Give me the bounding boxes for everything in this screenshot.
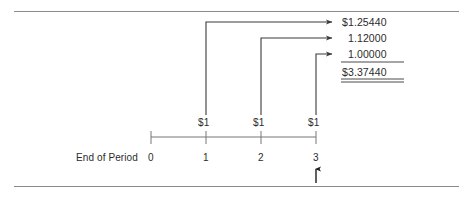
compound-path-period-2 xyxy=(261,38,332,115)
timeline-diagram xyxy=(0,0,469,201)
figure-container: $1.25440 1.12000 1.00000 $3.37440 $1 $1 … xyxy=(0,0,469,201)
timeline-tick-label-3: 3 xyxy=(313,152,319,163)
axis-caption-end-of-period: End of Period xyxy=(76,152,138,163)
timeline-tick-label-0: 0 xyxy=(148,152,154,163)
future-value-period-3: 1.00000 xyxy=(348,48,387,60)
cash-flow-label-period-3: $1 xyxy=(308,117,319,128)
compound-path-period-1 xyxy=(206,22,332,115)
timeline-tick-label-1: 1 xyxy=(203,152,209,163)
cash-flow-label-period-2: $1 xyxy=(253,117,264,128)
future-value-period-1: $1.25440 xyxy=(342,16,387,28)
total-future-value: $3.37440 xyxy=(342,66,387,78)
compound-path-period-3 xyxy=(316,54,332,115)
future-value-period-2: 1.12000 xyxy=(348,32,387,44)
cash-flow-label-period-1: $1 xyxy=(198,117,209,128)
timeline-tick-label-2: 2 xyxy=(258,152,264,163)
